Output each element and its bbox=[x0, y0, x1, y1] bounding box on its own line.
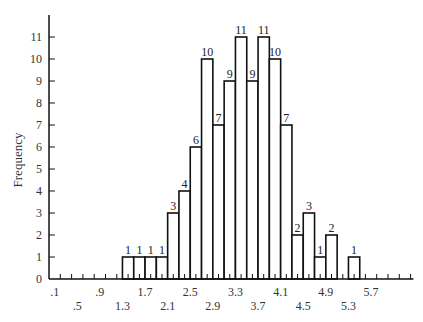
bar-value-label: 10 bbox=[269, 45, 281, 59]
histogram-bar bbox=[179, 191, 190, 279]
bar-value-label: 2 bbox=[295, 221, 301, 235]
x-tick-label: 4.1 bbox=[273, 285, 288, 299]
bar-value-label: 9 bbox=[249, 67, 255, 81]
histogram-bar bbox=[202, 59, 213, 279]
histogram-chart: 111134610791191110723121 01234567891011 … bbox=[0, 0, 423, 322]
y-tick-label: 9 bbox=[36, 74, 42, 88]
bar-value-label: 11 bbox=[258, 23, 270, 37]
x-tick-label: 2.9 bbox=[205, 299, 220, 313]
x-tick-label: 4.5 bbox=[296, 299, 311, 313]
y-tick-label: 11 bbox=[30, 30, 42, 44]
bar-value-label: 4 bbox=[182, 177, 188, 191]
y-tick-label: 8 bbox=[36, 96, 42, 110]
bar-value-label: 11 bbox=[235, 23, 247, 37]
histogram-bar bbox=[213, 125, 224, 279]
x-tick-label: 1.3 bbox=[115, 299, 130, 313]
y-axis-ticks: 01234567891011 bbox=[30, 30, 55, 286]
y-tick-label: 0 bbox=[36, 272, 42, 286]
bar-value-label: 1 bbox=[136, 243, 142, 257]
bar-value-label: 2 bbox=[329, 221, 335, 235]
histogram-bar bbox=[303, 213, 314, 279]
histogram-bar bbox=[269, 59, 280, 279]
x-tick-label: 5.3 bbox=[341, 299, 356, 313]
x-tick-label: 5.7 bbox=[364, 285, 379, 299]
bar-value-label: 1 bbox=[148, 243, 154, 257]
bar-value-label: 1 bbox=[351, 243, 357, 257]
bar-value-label: 3 bbox=[306, 199, 312, 213]
y-axis-label: Frequency bbox=[10, 132, 25, 187]
y-tick-label: 1 bbox=[36, 250, 42, 264]
histogram-bar bbox=[168, 213, 179, 279]
x-tick-label: .1 bbox=[50, 285, 59, 299]
x-tick-label: 4.9 bbox=[318, 285, 333, 299]
histogram-bar bbox=[326, 235, 337, 279]
x-tick-label: .9 bbox=[95, 285, 104, 299]
y-tick-label: 10 bbox=[30, 52, 42, 66]
x-tick-label: 3.7 bbox=[251, 299, 266, 313]
histogram-bar bbox=[292, 235, 303, 279]
histogram-bar bbox=[281, 125, 292, 279]
histogram-bar bbox=[190, 147, 201, 279]
bar-value-label: 7 bbox=[283, 111, 289, 125]
bar-value-label: 3 bbox=[170, 199, 176, 213]
bar-value-label: 1 bbox=[317, 243, 323, 257]
x-tick-label: 2.1 bbox=[160, 299, 175, 313]
bar-value-label: 9 bbox=[227, 67, 233, 81]
x-tick-label: .5 bbox=[73, 299, 82, 313]
y-tick-label: 4 bbox=[36, 184, 42, 198]
y-tick-label: 5 bbox=[36, 162, 42, 176]
bar-value-label: 7 bbox=[216, 111, 222, 125]
bar-value-label: 1 bbox=[125, 243, 131, 257]
bar-value-label: 1 bbox=[159, 243, 165, 257]
y-tick-label: 6 bbox=[36, 140, 42, 154]
bar-value-label: 6 bbox=[193, 133, 199, 147]
y-tick-label: 3 bbox=[36, 206, 42, 220]
x-tick-label: 2.5 bbox=[183, 285, 198, 299]
histogram-bar bbox=[247, 81, 258, 279]
y-tick-label: 7 bbox=[36, 118, 42, 132]
histogram-bar bbox=[235, 37, 246, 279]
histogram-bar bbox=[258, 37, 269, 279]
y-tick-label: 2 bbox=[36, 228, 42, 242]
x-tick-label: 3.3 bbox=[228, 285, 243, 299]
bar-value-label: 10 bbox=[201, 45, 213, 59]
x-axis-ticks: .1.91.72.53.34.14.95.7.51.32.12.93.74.55… bbox=[50, 274, 410, 313]
x-tick-label: 1.7 bbox=[138, 285, 153, 299]
histogram-bar bbox=[224, 81, 235, 279]
